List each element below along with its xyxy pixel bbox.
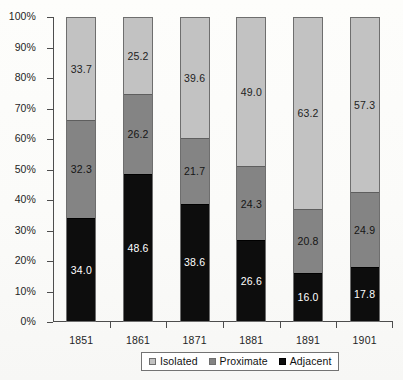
y-axis-tick xyxy=(47,17,53,18)
legend-item-adjacent[interactable]: Adjacent xyxy=(279,355,332,367)
bar-segment-value-label: 21.7 xyxy=(184,166,205,177)
bar-segment-isolated-1861[interactable]: 25.2 xyxy=(124,18,152,94)
bar-segment-isolated-1891[interactable]: 63.2 xyxy=(294,18,322,209)
bar-segment-adjacent-1901[interactable]: 17.8 xyxy=(351,267,379,321)
bar-segment-adjacent-1861[interactable]: 48.6 xyxy=(124,174,152,321)
bar-segment-isolated-1871[interactable]: 39.6 xyxy=(181,18,209,138)
x-axis-tick-label: 1901 xyxy=(336,334,393,346)
bar-segment-value-label: 63.2 xyxy=(297,108,318,119)
legend-label-adjacent: Adjacent xyxy=(290,355,332,367)
bar-1871[interactable]: 39.621.738.6 xyxy=(180,17,210,322)
x-axis-tick-label: 1861 xyxy=(110,334,167,346)
bar-segment-adjacent-1891[interactable]: 16.0 xyxy=(294,273,322,321)
legend-label-proximate: Proximate xyxy=(220,355,268,367)
x-axis-tick-label: 1881 xyxy=(223,334,280,346)
legend-swatch-proximate-icon xyxy=(209,358,216,365)
y-axis-tick xyxy=(47,139,53,140)
bar-1861[interactable]: 25.226.248.6 xyxy=(123,17,153,322)
y-axis-tick-label: 10% xyxy=(15,285,36,297)
bar-segment-adjacent-1851[interactable]: 34.0 xyxy=(67,218,95,321)
y-axis-tick xyxy=(47,48,53,49)
bar-1881[interactable]: 49.024.326.6 xyxy=(236,17,266,322)
bar-segment-value-label: 39.6 xyxy=(184,73,205,84)
bar-segment-value-label: 49.0 xyxy=(241,87,262,98)
x-axis-tick-label: 1891 xyxy=(280,334,337,346)
y-axis-tick xyxy=(47,200,53,201)
stacked-bar-chart: 0%10%20%30%40%50%60%70%80%90%100% 185118… xyxy=(0,0,403,380)
y-axis-tick xyxy=(47,78,53,79)
bar-segment-isolated-1851[interactable]: 33.7 xyxy=(67,18,95,120)
y-axis-tick-label: 50% xyxy=(15,163,36,175)
x-axis-tick xyxy=(336,322,337,328)
x-axis-tick xyxy=(166,322,167,328)
bar-segment-value-label: 17.8 xyxy=(354,289,375,300)
legend-label-isolated: Isolated xyxy=(160,355,198,367)
y-axis-tick xyxy=(47,322,53,323)
bar-segment-value-label: 48.6 xyxy=(127,243,148,254)
bar-segment-value-label: 20.8 xyxy=(297,236,318,247)
bar-1901[interactable]: 57.324.917.8 xyxy=(350,17,380,322)
x-axis-tick xyxy=(392,322,393,328)
bar-segment-value-label: 32.3 xyxy=(71,164,92,175)
y-axis-tick xyxy=(47,231,53,232)
bar-segment-proximate-1871[interactable]: 21.7 xyxy=(181,138,209,204)
chart-legend: Isolated Proximate Adjacent xyxy=(141,352,339,371)
bar-segment-value-label: 26.2 xyxy=(127,129,148,140)
bar-1891[interactable]: 63.220.816.0 xyxy=(293,17,323,322)
y-axis-tick xyxy=(47,261,53,262)
y-axis-tick-label: 100% xyxy=(9,10,36,22)
bar-1851[interactable]: 33.732.334.0 xyxy=(66,17,96,322)
y-axis-tick xyxy=(47,292,53,293)
bar-segment-value-label: 24.9 xyxy=(354,225,375,236)
legend-item-proximate[interactable]: Proximate xyxy=(209,355,268,367)
legend-item-isolated[interactable]: Isolated xyxy=(149,355,198,367)
bar-segment-value-label: 34.0 xyxy=(71,265,92,276)
bar-segment-value-label: 24.3 xyxy=(241,199,262,210)
bar-segment-proximate-1861[interactable]: 26.2 xyxy=(124,94,152,173)
plot-area: 0%10%20%30%40%50%60%70%80%90%100% 185118… xyxy=(53,17,393,322)
y-axis-line xyxy=(53,17,54,322)
y-axis-tick xyxy=(47,109,53,110)
x-axis-tick xyxy=(110,322,111,328)
bar-segment-value-label: 38.6 xyxy=(184,257,205,268)
bar-segment-adjacent-1881[interactable]: 26.6 xyxy=(237,240,265,321)
bar-segment-proximate-1851[interactable]: 32.3 xyxy=(67,120,95,218)
x-axis-tick xyxy=(280,322,281,328)
bar-segment-value-label: 26.6 xyxy=(241,276,262,287)
y-axis-tick-label: 0% xyxy=(21,315,36,327)
y-axis-tick-label: 30% xyxy=(15,224,36,236)
y-axis-tick-label: 80% xyxy=(15,71,36,83)
bar-segment-proximate-1881[interactable]: 24.3 xyxy=(237,166,265,240)
x-axis-tick xyxy=(223,322,224,328)
y-axis-tick xyxy=(47,170,53,171)
legend-swatch-isolated-icon xyxy=(149,358,156,365)
x-axis-tick-label: 1851 xyxy=(53,334,110,346)
bar-segment-isolated-1901[interactable]: 57.3 xyxy=(351,18,379,192)
y-axis-tick-label: 70% xyxy=(15,102,36,114)
y-axis-tick-label: 40% xyxy=(15,193,36,205)
y-axis-tick-label: 20% xyxy=(15,254,36,266)
bar-segment-value-label: 25.2 xyxy=(127,51,148,62)
bar-segment-value-label: 33.7 xyxy=(71,64,92,75)
y-axis-tick-label: 90% xyxy=(15,41,36,53)
bar-segment-proximate-1901[interactable]: 24.9 xyxy=(351,192,379,267)
bar-segment-value-label: 57.3 xyxy=(354,100,375,111)
y-axis-tick-label: 60% xyxy=(15,132,36,144)
x-axis-tick-label: 1871 xyxy=(166,334,223,346)
bar-segment-value-label: 16.0 xyxy=(297,292,318,303)
legend-swatch-adjacent-icon xyxy=(279,358,286,365)
bar-segment-adjacent-1871[interactable]: 38.6 xyxy=(181,204,209,321)
bar-segment-proximate-1891[interactable]: 20.8 xyxy=(294,209,322,272)
bar-segment-isolated-1881[interactable]: 49.0 xyxy=(237,18,265,166)
